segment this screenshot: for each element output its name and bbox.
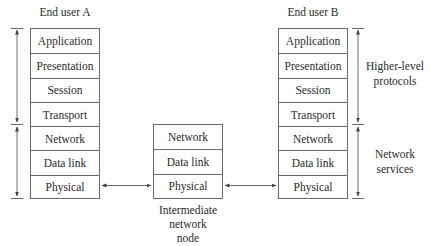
connector-overlay bbox=[0, 0, 430, 246]
